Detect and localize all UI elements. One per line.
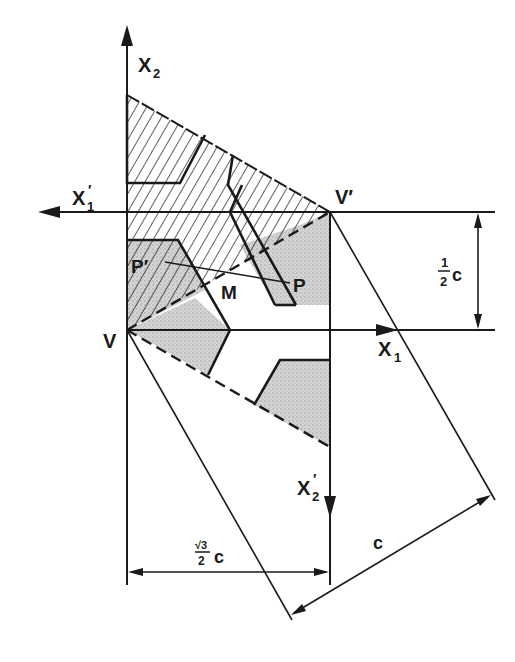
x1prime-mark: ′ [88,182,92,198]
sqrt3-den: 2 [198,554,205,568]
p-label: P [293,275,306,296]
v-label: V [103,330,117,352]
x2prime-arrow-icon [324,496,336,518]
x2prime-mark: ′ [313,471,317,487]
pprime-label: P′ [131,256,149,277]
x1-label: X [378,338,392,360]
axes [45,30,495,585]
sqrt3-var: c [214,547,224,567]
x1prime-sub: 1 [87,199,94,214]
vprime-label: V′ [335,186,353,208]
x2prime-label: X [297,477,311,499]
lattice-diagram: X 2 X 1 ′ V′ P′ P M V X 1 X 2 ′ 1 2 c √3… [0,0,515,662]
x2-label: X [138,54,152,76]
half-c-den: 2 [440,274,447,289]
m-label: M [221,282,237,303]
c-label: c [373,533,383,553]
x2prime-sub: 2 [312,489,319,504]
x1prime-arrow-icon [38,206,60,218]
x1-sub: 1 [394,350,401,365]
x2-arrow-icon [121,25,133,46]
x2-sub: 2 [153,66,160,81]
sqrt3-num: √3 [195,539,207,551]
half-c-var: c [452,265,462,285]
half-c-num: 1 [441,255,448,270]
x1prime-label: X [72,187,86,209]
